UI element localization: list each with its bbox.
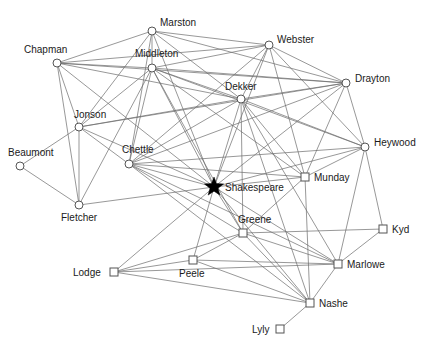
- graph-edge: [129, 164, 305, 177]
- graph-edge: [114, 233, 243, 272]
- graph-node-label-beaumont: Beaumont: [8, 147, 54, 158]
- graph-edge: [365, 147, 383, 229]
- graph-node-label-heywood: Heywood: [374, 137, 416, 148]
- graph-edge: [20, 166, 79, 205]
- graph-edge: [269, 45, 305, 177]
- graph-node-marlowe[interactable]: [334, 260, 342, 268]
- graph-edge: [193, 260, 338, 264]
- graph-node-label-chettle: Chettle: [122, 144, 154, 155]
- graph-edge: [269, 45, 346, 83]
- graph-edge: [152, 31, 269, 45]
- graph-node-label-nashe: Nashe: [319, 298, 348, 309]
- graph-edge: [243, 229, 383, 233]
- graph-edge: [79, 83, 346, 127]
- graph-edge: [152, 68, 214, 187]
- graph-node-label-kyd: Kyd: [392, 224, 409, 235]
- graph-node-jonson[interactable]: [75, 123, 83, 131]
- graph-node-lyly[interactable]: [276, 325, 284, 333]
- graph-node-middleton[interactable]: [148, 64, 156, 72]
- graph-edge: [243, 233, 310, 303]
- graph-node-label-shakespeare: Shakespeare: [225, 182, 284, 193]
- graph-edge: [114, 264, 338, 272]
- graph-node-lodge[interactable]: [110, 268, 118, 276]
- graph-edge: [305, 83, 346, 177]
- graph-node-label-munday: Munday: [314, 172, 350, 183]
- graph-edge: [114, 187, 214, 272]
- graph-node-heywood[interactable]: [361, 143, 369, 151]
- graph-node-label-drayton: Drayton: [355, 73, 390, 84]
- graph-node-peele[interactable]: [189, 256, 197, 264]
- network-diagram-canvas: MarstonChapmanMiddletonWebsterDraytonDek…: [0, 0, 427, 348]
- graph-edge: [305, 177, 310, 303]
- graph-node-label-dekker: Dekker: [225, 81, 257, 92]
- network-graph: MarstonChapmanMiddletonWebsterDraytonDek…: [0, 0, 427, 348]
- graph-edge: [57, 63, 346, 83]
- graph-edge: [241, 99, 310, 303]
- graph-node-greene[interactable]: [239, 229, 247, 237]
- graph-edge: [193, 187, 214, 260]
- graph-node-munday[interactable]: [301, 173, 309, 181]
- graph-edge: [241, 99, 365, 147]
- graph-node-label-fletcher: Fletcher: [61, 212, 98, 223]
- graph-edge: [79, 187, 214, 205]
- graph-node-label-webster: Webster: [277, 34, 315, 45]
- graph-node-label-lodge: Lodge: [73, 267, 101, 278]
- graph-node-label-peele: Peele: [179, 268, 205, 279]
- graph-node-drayton[interactable]: [342, 79, 350, 87]
- graph-node-fletcher[interactable]: [75, 201, 83, 209]
- graph-node-label-lyly: Lyly: [252, 324, 269, 335]
- graph-node-label-marston: Marston: [160, 17, 196, 28]
- graph-node-label-jonson: Jonson: [74, 109, 106, 120]
- graph-edge: [129, 147, 365, 164]
- graph-node-chettle[interactable]: [125, 160, 133, 168]
- graph-node-beaumont[interactable]: [16, 162, 24, 170]
- graph-edge: [114, 272, 310, 303]
- graph-node-dekker[interactable]: [237, 95, 245, 103]
- graph-edge: [241, 99, 243, 233]
- graph-node-kyd[interactable]: [379, 225, 387, 233]
- graph-node-label-middleton: Middleton: [135, 48, 178, 59]
- graph-node-marston[interactable]: [148, 27, 156, 35]
- graph-node-label-marlowe: Marlowe: [347, 259, 385, 270]
- graph-node-webster[interactable]: [265, 41, 273, 49]
- graph-edge: [79, 68, 152, 205]
- graph-edge: [243, 233, 338, 264]
- graph-node-label-chapman: Chapman: [24, 44, 67, 55]
- graph-node-chapman[interactable]: [53, 59, 61, 67]
- graph-edge: [193, 233, 243, 260]
- graph-node-nashe[interactable]: [306, 299, 314, 307]
- graph-edge: [269, 45, 365, 147]
- graph-edge: [129, 83, 346, 164]
- graph-edge: [214, 187, 338, 264]
- graph-node-label-greene: Greene: [238, 214, 272, 225]
